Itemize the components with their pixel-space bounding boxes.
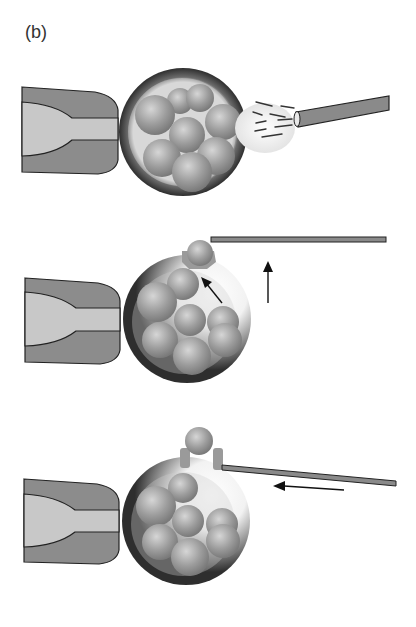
- diagram-canvas: [0, 0, 416, 627]
- biopsy-pipette: [222, 465, 396, 486]
- holding-pipette: [22, 87, 118, 174]
- biopsy-pipette: [211, 237, 386, 242]
- panel-1: [22, 68, 389, 196]
- acid-spray: [235, 102, 295, 153]
- holding-pipette: [24, 479, 119, 564]
- arrow-icon-up: [263, 261, 273, 303]
- panel-2: [25, 237, 386, 383]
- arrow-icon-left: [273, 481, 344, 491]
- holding-pipette: [25, 278, 120, 364]
- embryo: [123, 255, 251, 383]
- acid-pipette: [294, 96, 389, 127]
- extruded-blastomere: [182, 240, 216, 269]
- embryo: [119, 68, 247, 196]
- embryo: [122, 457, 250, 585]
- panel-3: [24, 427, 396, 585]
